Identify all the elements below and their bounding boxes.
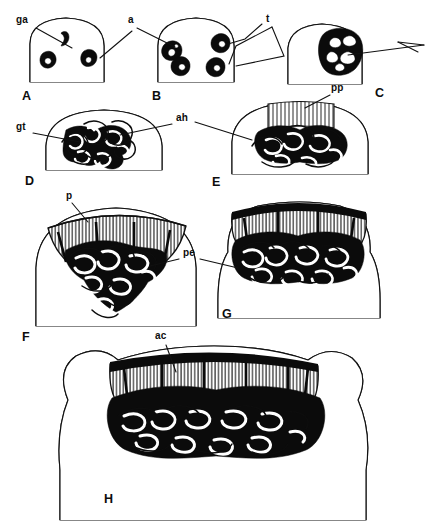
annotation-p: p	[66, 191, 72, 201]
panel-letter-d: D	[25, 175, 34, 188]
panel-a-drawing	[30, 18, 132, 84]
figure-plate: ga a t gt ah pp p pe ac A B C D E F G H	[0, 0, 425, 532]
panel-letter-f: F	[22, 331, 30, 344]
panel-e-drawing	[195, 95, 368, 176]
panel-letter-h: H	[104, 493, 113, 506]
annotation-gt: gt	[16, 122, 26, 132]
annotation-a: a	[128, 15, 134, 25]
panel-f-drawing	[36, 203, 196, 330]
annotation-pe: pe	[183, 248, 195, 258]
annotation-ga: ga	[16, 15, 28, 25]
annotation-pp: pp	[331, 83, 344, 93]
panel-d-drawing	[33, 110, 172, 170]
panel-g-gland-mass	[232, 232, 364, 286]
annotation-t: t	[266, 14, 270, 24]
panel-letter-e: E	[212, 176, 221, 189]
panel-b-drawing	[137, 18, 284, 84]
panel-e-palisade	[268, 102, 334, 129]
panel-g-drawing	[200, 202, 380, 322]
annotation-ac: ac	[155, 331, 167, 341]
panel-h-gland-mass	[107, 386, 325, 458]
panel-c-drawing	[288, 24, 424, 86]
panel-letter-a: A	[22, 90, 31, 103]
figure-canvas	[0, 0, 425, 532]
panel-letter-g: G	[222, 308, 232, 321]
panel-letter-b: B	[152, 90, 161, 103]
panel-letter-c: C	[375, 87, 384, 100]
annotation-ah: ah	[176, 113, 188, 123]
